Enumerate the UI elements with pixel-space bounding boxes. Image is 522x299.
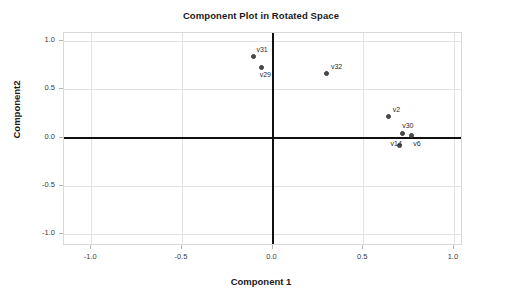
gridline-horizontal: [64, 89, 461, 90]
x-axis-tick-label: 0.5: [342, 252, 382, 261]
data-point: [251, 54, 256, 59]
x-axis-tick-mark: [362, 245, 363, 249]
data-point-label: v14: [391, 140, 402, 147]
data-point-label: v29: [260, 71, 271, 78]
plot-area: v31v29v32v2v30v6v14: [63, 32, 462, 245]
y-axis-tick-mark: [59, 137, 63, 138]
data-point: [386, 114, 391, 119]
data-point-label: v31: [256, 46, 267, 53]
data-point: [259, 65, 264, 70]
data-point-label: v6: [413, 140, 420, 147]
y-axis-tick-label: 1.0: [21, 35, 55, 44]
x-axis-tick-mark: [90, 245, 91, 249]
y-axis-tick-mark: [59, 233, 63, 234]
x-axis-tick-mark: [453, 245, 454, 249]
component-plot-chart: Component Plot in Rotated Space v31v29v3…: [0, 0, 522, 299]
y-axis-tick-mark: [59, 185, 63, 186]
data-point: [400, 131, 405, 136]
x-axis-tick-mark: [181, 245, 182, 249]
y-axis-tick-label: 0.5: [21, 83, 55, 92]
y-axis-tick-label: -1.0: [21, 228, 55, 237]
gridline-horizontal: [64, 186, 461, 187]
data-point: [324, 71, 329, 76]
chart-title: Component Plot in Rotated Space: [0, 10, 522, 21]
zero-axis-vertical: [272, 33, 274, 244]
y-axis-tick-label: 0.0: [21, 132, 55, 141]
x-axis-tick-label: 1.0: [433, 252, 473, 261]
y-axis-tick-mark: [59, 88, 63, 89]
x-axis-tick-mark: [272, 245, 273, 249]
gridline-horizontal: [64, 234, 461, 235]
data-point-label: v2: [393, 106, 400, 113]
x-axis-tick-label: 0.0: [252, 252, 292, 261]
zero-axis-horizontal: [64, 137, 461, 139]
gridline-horizontal: [64, 41, 461, 42]
x-axis-tick-label: -0.5: [161, 252, 201, 261]
data-point: [409, 133, 414, 138]
data-point-label: v32: [331, 63, 342, 70]
x-axis-title: Component 1: [0, 276, 522, 287]
y-axis-tick-label: -0.5: [21, 180, 55, 189]
y-axis-title: Component2: [11, 50, 22, 170]
data-point-label: v30: [402, 122, 413, 129]
x-axis-tick-label: -1.0: [70, 252, 110, 261]
y-axis-tick-mark: [59, 40, 63, 41]
